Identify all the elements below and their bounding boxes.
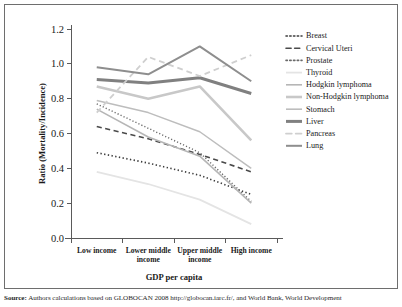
chart-frame: 0.00.20.40.60.81.01.2Low incomeLower mid… [4, 4, 398, 289]
series-line-lung [97, 46, 252, 81]
series-line-thyroid [97, 172, 252, 224]
y-tick-label: 0.8 [51, 93, 64, 104]
source-note: Source: Authors calculations based on GL… [4, 293, 400, 303]
y-tick-label: 1.0 [51, 58, 64, 69]
x-tick-label: Low income [77, 246, 117, 255]
y-tick-label: 0.6 [51, 128, 64, 139]
legend-label-liver: Liver [306, 117, 324, 126]
figure-container: 0.00.20.40.60.81.01.2Low incomeLower mid… [0, 0, 402, 307]
source-text: Authors calculations based on GLOBOCAN 2… [28, 294, 342, 302]
series-line-pancreas [97, 55, 252, 112]
y-tick-label: 0.2 [51, 198, 64, 209]
y-tick-label: 1.2 [51, 24, 64, 35]
legend-label-stomach: Stomach [306, 105, 335, 114]
series-line-cervical-uteri [97, 127, 252, 172]
y-tick-label: 0.0 [51, 233, 64, 244]
x-tick-label: Upper middle [177, 246, 222, 255]
series-line-breast [97, 153, 252, 195]
legend-label-cervical-uteri: Cervical Uteri [306, 44, 353, 53]
x-tick-label: income [188, 255, 212, 264]
legend-label-thyroid: Thyroid [306, 68, 332, 77]
series-line-hodgkin-lymphoma [97, 109, 252, 203]
y-tick-label: 0.4 [51, 163, 65, 174]
x-tick-label: High income [231, 246, 273, 255]
legend-label-lung: Lung [306, 141, 323, 150]
legend-label-prostate: Prostate [306, 56, 333, 65]
x-tick-label: income [137, 255, 161, 264]
series-line-non-hodgkin-lymphoma [97, 86, 252, 140]
source-label: Source: [4, 294, 27, 302]
legend-label-hodgkin-lymphoma: Hodgkin lymphoma [306, 80, 372, 89]
x-axis-title: GDP per capita [146, 272, 203, 282]
legend-label-pancreas: Pancreas [306, 129, 335, 138]
y-axis-title: Ratio (Mortality/Incidence) [37, 83, 47, 184]
x-tick-label: Lower middle [126, 246, 172, 255]
legend-label-non-hodgkin-lymphoma: Non-Hodgkin lymphoma [306, 92, 389, 101]
line-chart: 0.00.20.40.60.81.01.2Low incomeLower mid… [5, 5, 397, 288]
legend-label-breast: Breast [306, 31, 328, 40]
